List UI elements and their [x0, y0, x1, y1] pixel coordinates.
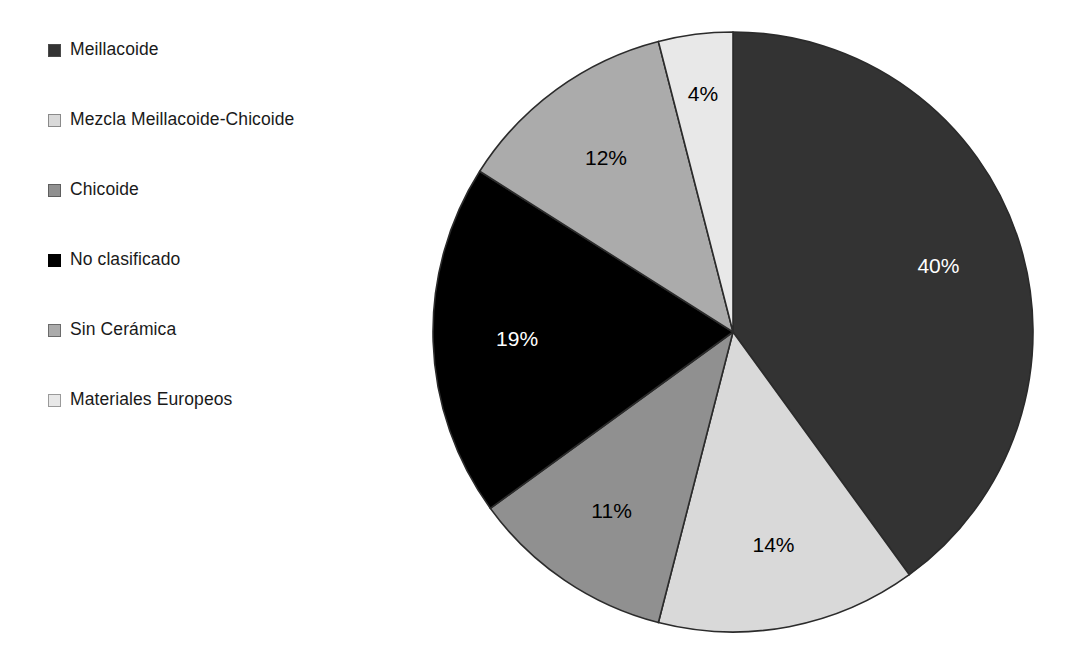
pie-slice-value-label: 40%	[917, 254, 959, 277]
pie-slice-value-label: 11%	[591, 499, 631, 522]
pie-slice-value-label: 12%	[585, 146, 627, 169]
pie-chart-svg: 40%14%11%19%12%4%	[0, 0, 1083, 663]
pie-slice-value-label: 4%	[688, 82, 718, 105]
pie-chart: 40%14%11%19%12%4%	[0, 0, 1083, 663]
pie-slice-value-label: 14%	[752, 533, 794, 556]
pie-slice-value-label: 19%	[496, 327, 538, 350]
